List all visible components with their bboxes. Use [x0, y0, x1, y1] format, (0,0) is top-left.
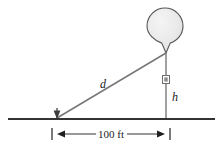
baseline-dimension-label: 100 ft [98, 128, 124, 140]
dimension-arrow-left [57, 131, 96, 138]
height-label: h [172, 90, 178, 104]
balloon-shape [147, 8, 183, 53]
distance-line [57, 53, 166, 118]
diagram-canvas: d h 100 ft [0, 0, 223, 148]
angle-marker-icon [163, 76, 170, 84]
dimension-arrow-right [127, 131, 165, 138]
distance-label: d [100, 77, 107, 91]
balloon-outline [147, 8, 183, 53]
balloon-diagram-figure: d h 100 ft [0, 0, 223, 148]
